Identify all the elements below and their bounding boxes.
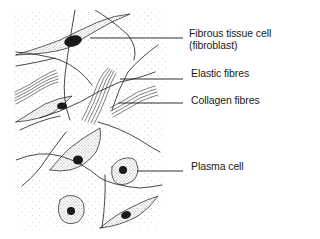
plasma-nucleus: [119, 166, 127, 174]
fibroblast-nucleus-middle: [57, 103, 67, 110]
label-collagen-fibres: Collagen fibres: [191, 94, 260, 106]
label-plasma-cell: Plasma cell: [191, 160, 244, 172]
plasma-cell-lower: [58, 196, 84, 224]
label-fibroblast-line2: (fibroblast): [189, 39, 271, 51]
label-fibroblast-line1: Fibrous tissue cell: [189, 27, 271, 39]
label-fibroblast: Fibrous tissue cell (fibroblast): [189, 27, 271, 51]
label-elastic-fibres: Elastic fibres: [191, 67, 249, 79]
plasma-nucleus-lower: [67, 207, 75, 215]
fibroblast-nucleus-center: [73, 156, 83, 165]
